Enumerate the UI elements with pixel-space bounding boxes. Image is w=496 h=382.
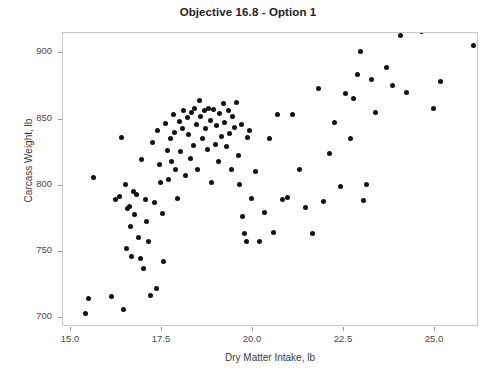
data-point: [229, 167, 234, 172]
data-point: [157, 162, 162, 167]
data-point: [398, 33, 403, 38]
data-point: [237, 182, 242, 187]
data-point: [253, 169, 258, 174]
y-tick-label: 900: [6, 45, 52, 56]
data-point: [128, 224, 133, 229]
data-point: [154, 286, 159, 291]
data-point: [290, 112, 295, 117]
chart-title: Objective 16.8 - Option 1: [0, 6, 496, 18]
data-point: [369, 77, 374, 82]
x-tick-label: 20.0: [227, 333, 277, 344]
scatter-plot-figure: Objective 16.8 - Option 1 Carcass Weight…: [0, 0, 496, 382]
data-point: [219, 134, 224, 139]
data-point: [166, 177, 171, 182]
data-point: [139, 157, 144, 162]
data-point: [121, 307, 126, 312]
data-point: [431, 106, 436, 111]
data-point: [404, 90, 409, 95]
data-point: [124, 246, 129, 251]
x-tick-label: 15.0: [45, 333, 95, 344]
data-point: [232, 125, 237, 130]
data-point: [217, 111, 222, 116]
data-point: [198, 114, 203, 119]
data-point: [180, 126, 185, 131]
data-point: [216, 159, 221, 164]
data-point: [169, 159, 174, 164]
y-tick-label: 850: [6, 112, 52, 123]
data-point: [161, 259, 166, 264]
data-point: [249, 196, 254, 201]
data-point: [245, 135, 250, 140]
data-point: [332, 120, 337, 125]
data-point: [143, 197, 148, 202]
data-point: [168, 136, 173, 141]
data-point: [194, 122, 199, 127]
x-tick-mark: [252, 327, 253, 331]
data-point: [119, 135, 124, 140]
data-point: [364, 182, 369, 187]
plot-area: [62, 32, 478, 326]
data-point: [390, 83, 395, 88]
data-point: [83, 311, 88, 316]
data-point: [123, 182, 128, 187]
data-point: [203, 126, 208, 131]
y-tick-label: 700: [6, 310, 52, 321]
x-tick-label: 25.0: [409, 333, 459, 344]
data-point: [310, 231, 315, 236]
data-point: [177, 119, 182, 124]
data-point: [141, 266, 146, 271]
data-point: [247, 128, 252, 133]
data-point: [351, 96, 356, 101]
data-point: [197, 98, 202, 103]
data-point: [227, 131, 232, 136]
x-tick-mark: [434, 327, 435, 331]
x-tick-mark: [70, 327, 71, 331]
data-point: [195, 167, 200, 172]
data-point: [165, 148, 170, 153]
data-point: [285, 195, 290, 200]
data-point: [185, 115, 190, 120]
data-point: [173, 167, 178, 172]
data-point: [348, 136, 353, 141]
data-point: [327, 151, 332, 156]
data-point: [361, 198, 366, 203]
data-point: [160, 211, 165, 216]
data-point: [200, 136, 205, 141]
x-axis-label: Dry Matter Intake, lb: [62, 352, 478, 363]
data-point: [91, 175, 96, 180]
data-point: [209, 180, 214, 185]
data-point: [175, 196, 180, 201]
data-points-layer: [63, 33, 477, 325]
data-point: [155, 128, 160, 133]
data-point: [163, 121, 168, 126]
data-point: [321, 199, 326, 204]
data-point: [230, 114, 235, 119]
data-point: [222, 120, 227, 125]
data-point: [419, 33, 424, 34]
data-point: [343, 91, 348, 96]
data-point: [192, 106, 197, 111]
data-point: [262, 210, 267, 215]
data-point: [224, 144, 229, 149]
data-point: [191, 143, 196, 148]
data-point: [297, 167, 302, 172]
data-point: [138, 256, 143, 261]
data-point: [240, 214, 245, 219]
x-tick-label: 17.5: [136, 333, 186, 344]
data-point: [471, 43, 476, 48]
data-point: [150, 140, 155, 145]
data-point: [181, 108, 186, 113]
data-point: [244, 239, 249, 244]
data-point: [158, 180, 163, 185]
data-point: [152, 200, 157, 205]
data-point: [171, 112, 176, 117]
data-point: [316, 86, 321, 91]
data-point: [271, 230, 276, 235]
data-point: [148, 293, 153, 298]
data-point: [239, 122, 244, 127]
data-point: [257, 239, 262, 244]
data-point: [134, 192, 139, 197]
data-point: [267, 136, 272, 141]
data-point: [236, 153, 241, 158]
data-point: [127, 204, 132, 209]
